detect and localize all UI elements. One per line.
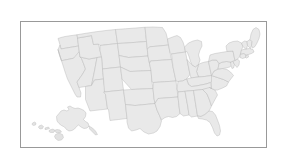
- hawaii-island-big-island[interactable]: [55, 133, 64, 141]
- state-ND[interactable]: [116, 27, 147, 43]
- state-AK[interactable]: [57, 106, 90, 131]
- states-layer: [58, 27, 260, 136]
- alaska-aleutian-islands[interactable]: [54, 130, 62, 134]
- state-OK[interactable]: [124, 89, 156, 106]
- hawaii-island-molokai[interactable]: [45, 127, 50, 130]
- map-figure: [0, 0, 283, 158]
- state-CO[interactable]: [103, 67, 124, 92]
- state-SD[interactable]: [118, 42, 149, 58]
- state-WI[interactable]: [168, 36, 186, 55]
- hawaii-island-oahu[interactable]: [39, 125, 44, 129]
- hawaii-island-maui[interactable]: [49, 129, 55, 133]
- state-WY[interactable]: [100, 44, 121, 70]
- state-MO[interactable]: [150, 60, 177, 83]
- united-states-map[interactable]: [21, 22, 266, 147]
- state-ME[interactable]: [250, 28, 260, 49]
- hawaii-island-kauai[interactable]: [32, 122, 36, 126]
- alaska-peninsula[interactable]: [89, 126, 98, 135]
- map-border: [20, 21, 267, 148]
- state-NM[interactable]: [104, 90, 128, 121]
- state-TX[interactable]: [126, 104, 162, 135]
